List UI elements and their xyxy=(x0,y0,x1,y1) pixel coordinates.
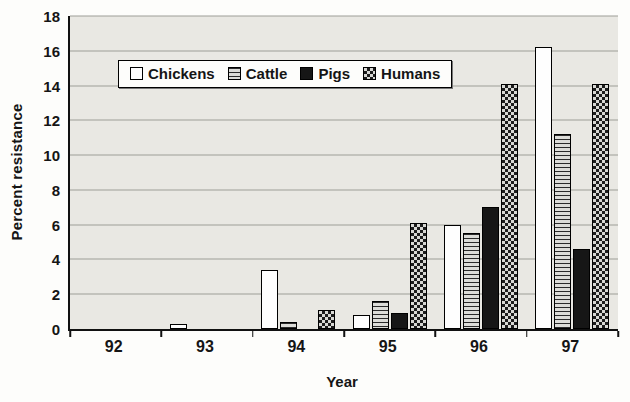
bar-pigs-95 xyxy=(391,313,408,329)
bar-chickens-95 xyxy=(353,315,370,329)
y-tick-label: 18 xyxy=(43,9,60,24)
bar-humans-94 xyxy=(318,310,335,329)
x-tick-label: 95 xyxy=(342,338,433,356)
resistance-bar-chart: Percent resistance 024681012141618 Chick… xyxy=(0,0,630,402)
x-axis-tick xyxy=(343,331,345,337)
legend-item-humans: Humans xyxy=(363,65,440,82)
y-tick-label: 8 xyxy=(52,182,60,197)
bar-group-97 xyxy=(527,16,618,329)
y-axis-title: Percent resistance xyxy=(8,103,25,240)
x-axis-tick xyxy=(526,331,528,337)
bar-chickens-96 xyxy=(444,225,461,329)
bar-slot xyxy=(78,16,97,329)
bar-slot xyxy=(500,16,519,329)
bar-humans-96 xyxy=(501,84,518,329)
y-tick-label: 12 xyxy=(43,113,60,128)
humans-swatch-icon xyxy=(363,67,376,80)
x-tick-label: 93 xyxy=(159,338,250,356)
plot-area: Chickens Cattle Pigs Humans xyxy=(68,16,618,331)
bar-pigs-97 xyxy=(573,249,590,329)
x-axis-tick xyxy=(252,331,254,337)
bar-humans-95 xyxy=(410,223,427,329)
x-axis-tick xyxy=(435,331,437,337)
bar-cattle-94 xyxy=(280,322,297,329)
y-tick-label: 10 xyxy=(43,148,60,163)
x-tick-label: 94 xyxy=(251,338,342,356)
x-axis-tick xyxy=(617,331,619,337)
bar-slot xyxy=(572,16,591,329)
bar-humans-97 xyxy=(592,84,609,329)
x-axis-tick xyxy=(69,331,71,337)
legend: Chickens Cattle Pigs Humans xyxy=(118,60,452,88)
bar-slot xyxy=(462,16,481,329)
chickens-swatch-icon xyxy=(130,67,143,80)
bar-cattle-96 xyxy=(463,233,480,329)
legend-label: Cattle xyxy=(246,65,288,82)
x-axis-ticks xyxy=(70,329,618,338)
y-tick-label: 2 xyxy=(52,287,60,302)
bar-slot xyxy=(97,16,116,329)
bar-slot xyxy=(553,16,572,329)
legend-item-cattle: Cattle xyxy=(228,65,288,82)
bar-cattle-97 xyxy=(554,134,571,329)
legend-label: Humans xyxy=(381,65,440,82)
bar-slot xyxy=(591,16,610,329)
y-axis-tick-labels: 024681012141618 xyxy=(26,16,62,329)
x-tick-label: 97 xyxy=(525,338,616,356)
legend-item-pigs: Pigs xyxy=(300,65,350,82)
y-tick-label: 6 xyxy=(52,217,60,232)
cattle-swatch-icon xyxy=(228,67,241,80)
legend-label: Pigs xyxy=(318,65,350,82)
y-tick-label: 4 xyxy=(52,252,60,267)
legend-label: Chickens xyxy=(148,65,215,82)
x-axis-tick xyxy=(161,331,163,337)
y-tick-label: 14 xyxy=(43,78,60,93)
y-tick-label: 16 xyxy=(43,43,60,58)
pigs-swatch-icon xyxy=(300,67,313,80)
y-tick-label: 0 xyxy=(52,322,60,337)
x-axis-tick-labels: 929394959697 xyxy=(68,338,616,356)
x-tick-label: 96 xyxy=(433,338,524,356)
legend-item-chickens: Chickens xyxy=(130,65,215,82)
bar-cattle-95 xyxy=(372,301,389,329)
bar-slot xyxy=(481,16,500,329)
bar-chickens-94 xyxy=(261,270,278,329)
x-tick-label: 92 xyxy=(68,338,159,356)
bar-slot xyxy=(534,16,553,329)
bar-chickens-97 xyxy=(535,47,552,329)
bar-pigs-96 xyxy=(482,207,499,329)
x-axis-title: Year xyxy=(326,373,358,390)
